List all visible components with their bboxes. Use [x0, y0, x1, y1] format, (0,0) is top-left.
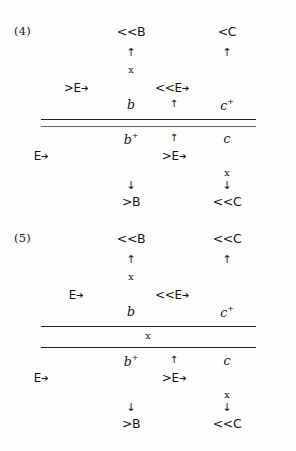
- rule-top-5: [41, 326, 256, 327]
- segment-c-upper-5-sup: +: [227, 304, 234, 313]
- e-item-left-upper-5: E➔: [69, 289, 84, 301]
- e-item-left-upper-5-arrow-icon: ➔: [76, 290, 83, 300]
- assoc-arrow-up-b-5: ↑: [126, 254, 135, 265]
- e-item-mid-upper-5-label: <<E: [155, 288, 182, 302]
- segment-c-upper-5-label: c: [220, 305, 227, 320]
- rule-bottom-5: [41, 347, 256, 348]
- segment-b-lower-5: b+: [124, 355, 139, 369]
- e-item-mid-upper-5: <<E➔: [155, 289, 189, 301]
- e-item-left-lower-5: E➔: [34, 372, 49, 384]
- e-item-mid-lower-5: >E➔: [162, 372, 186, 384]
- e-item-mid-lower-5-arrow-icon: ➔: [179, 373, 186, 383]
- segment-b-lower-5-label: b: [124, 354, 132, 369]
- e-item-mid-upper-5-arrow-icon: ➔: [182, 290, 189, 300]
- assoc-arrow-up-c-5: ↑: [222, 254, 231, 265]
- example-5: (5) <<B <<C ↑ ↑ x E➔ <<E➔ b c+ x b+ ↑ c …: [0, 0, 296, 451]
- assoc-arrow-down-b-5: ↓: [126, 402, 135, 413]
- x-mark-lower-5: x: [224, 390, 229, 400]
- scanned-page: ·· ····· ·· ···· ······· (4) <<B <C ↑ ↑ …: [0, 0, 296, 451]
- rule-label-5: x: [145, 330, 150, 341]
- tone-tier-item-c-lower-5: <<C: [213, 418, 241, 431]
- segment-c-upper-5: c+: [220, 306, 234, 320]
- tone-tier-item-b-upper-5: <<B: [117, 233, 145, 246]
- segment-c-lower-5-label: c: [223, 353, 230, 368]
- segment-c-lower-5: c: [223, 355, 230, 368]
- assoc-arrow-down-c-5: ↓: [222, 402, 231, 413]
- tone-tier-item-b-lower-5: >B: [122, 418, 140, 431]
- segment-b-upper-5: b: [127, 306, 135, 319]
- e-item-mid-lower-5-label: >E: [162, 371, 179, 385]
- e-item-left-lower-5-arrow-icon: ➔: [41, 373, 48, 383]
- segment-b-lower-5-sup: +: [132, 353, 139, 362]
- tone-tier-item-c-upper-5: <<C: [213, 233, 241, 246]
- example-number-5: (5): [14, 231, 31, 245]
- segment-b-upper-5-label: b: [127, 304, 135, 319]
- assoc-arrow-up-mid-lower-5: ↑: [170, 355, 178, 365]
- x-mark-upper-5: x: [128, 272, 133, 282]
